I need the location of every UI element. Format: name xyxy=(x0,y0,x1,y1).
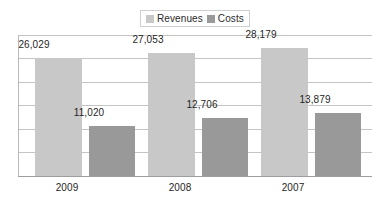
value-label-revenues-2007: 28,179 xyxy=(237,30,285,40)
gridline xyxy=(18,35,372,36)
value-label-costs-2009: 11,020 xyxy=(65,108,113,118)
bar-revenues-2007[interactable] xyxy=(261,48,308,176)
value-label-costs-2008: 12,706 xyxy=(178,100,226,110)
x-axis-label-2008: 2008 xyxy=(156,183,204,193)
x-axis-label-2007: 2007 xyxy=(269,183,317,193)
legend-item-revenues[interactable]: Revenues xyxy=(146,14,203,24)
revenues-color-swatch xyxy=(146,15,154,23)
x-axis-line xyxy=(18,176,372,177)
bar-revenues-2008[interactable] xyxy=(148,53,195,176)
legend-label-revenues: Revenues xyxy=(157,14,203,24)
x-axis-label-2009: 2009 xyxy=(43,183,91,193)
bar-chart: Revenues Costs 26,029 11,020 27,053 12,7… xyxy=(0,0,386,206)
chart-legend: Revenues Costs xyxy=(140,10,250,27)
value-label-costs-2007: 13,879 xyxy=(291,95,339,105)
bar-costs-2009[interactable] xyxy=(89,126,135,176)
y-axis-line xyxy=(18,35,19,177)
value-label-revenues-2009: 26,029 xyxy=(10,40,58,50)
legend-item-costs[interactable]: Costs xyxy=(207,14,244,24)
bar-costs-2008[interactable] xyxy=(202,118,248,176)
value-label-revenues-2008: 27,053 xyxy=(124,35,172,45)
legend-label-costs: Costs xyxy=(218,14,244,24)
costs-color-swatch xyxy=(207,15,215,23)
bar-costs-2007[interactable] xyxy=(315,113,361,176)
